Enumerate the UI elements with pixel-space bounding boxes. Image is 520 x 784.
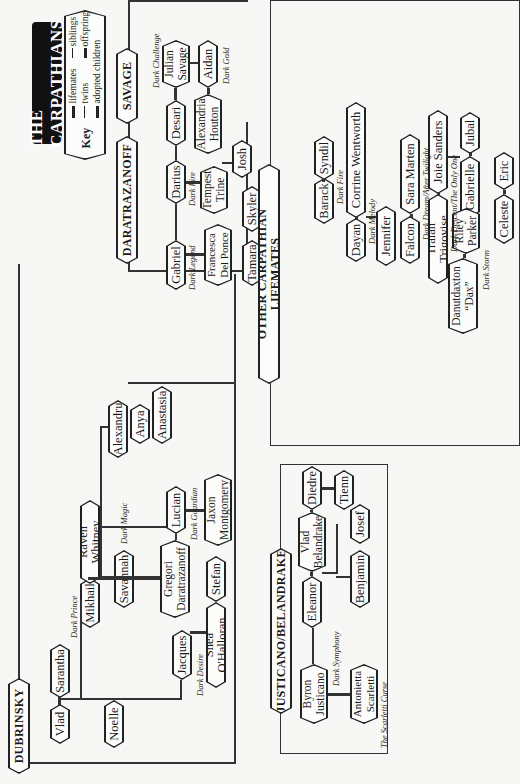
book-dark-fire-darius: Dark Fire	[188, 172, 197, 206]
key-item-twins: twins	[80, 83, 90, 104]
twins-symbol-icon	[84, 106, 85, 118]
person-vlad-belandrake: Vlad Belandrake	[298, 512, 326, 572]
person-stefan-node: Stefan	[206, 556, 226, 602]
person-raven-whitney: Raven Whitney	[80, 500, 100, 584]
book-dark-challenge: Dark Challenge	[152, 33, 161, 88]
book-scarletti-curse: The Scarletti Curse	[380, 682, 389, 748]
person-gabrielle: Gabrielle	[460, 156, 480, 218]
person-lucian: Lucian	[166, 486, 186, 534]
person-traian-trigovise: Traian Trigovise	[428, 194, 448, 284]
book-dark-legend: Dark Legend	[188, 245, 197, 290]
person-anya: Anya	[130, 404, 150, 444]
person-joie-sanders: Joie Sanders	[428, 110, 448, 194]
book-dark-desire: Dark Desire	[196, 654, 205, 696]
person-josef: Josef	[350, 504, 370, 544]
person-mikhail: Mikhail	[80, 578, 100, 628]
person-noelle: Noelle	[104, 700, 124, 748]
person-celeste: Celeste	[494, 194, 514, 244]
person-eric: Eric	[494, 152, 514, 190]
key-item-siblings: siblings	[68, 17, 78, 47]
family-label-justicano-belandrake: JUSTICANO/BELANDRAKE	[270, 548, 292, 714]
person-corrine-wentworth: Corrine Wentworth	[346, 102, 366, 218]
book-dark-prince: Dark Prince	[70, 596, 79, 638]
person-josh: Josh	[232, 140, 252, 178]
person-desari: Desari	[166, 100, 186, 146]
book-dark-symphony: Dark Symphony	[332, 631, 341, 686]
book-dark-gold: Dark Gold	[222, 47, 231, 84]
person-barack: Barack	[314, 178, 334, 224]
book-dark-storm: Dark Storm	[482, 250, 491, 290]
person-anastasia: Anastasia	[152, 386, 172, 444]
book-dark-dream: Dark Dream/After Twilight	[422, 148, 431, 240]
person-jacques: Jacques	[172, 630, 192, 680]
person-julian-savage: Julian Savage	[162, 40, 190, 88]
siblings-symbol-icon	[72, 48, 73, 58]
person-byron-justicano: Byron Justicano	[300, 664, 328, 724]
book-dark-guardian: Dark Guardian	[190, 488, 199, 540]
person-diedre: Diedre	[302, 466, 322, 510]
book-dark-fire-barack: Dark Fire	[336, 170, 345, 204]
legend-key: Key lifemates twins adopted children sib…	[64, 10, 106, 160]
family-label-savage: SAVAGE	[116, 48, 138, 124]
person-danutdaxton-dax: Danutdaxton “Dax”	[448, 258, 478, 334]
person-tienn: Tienn	[334, 470, 354, 510]
adopted-symbol-icon	[96, 106, 99, 118]
page-title: THE CARPATHIANS	[32, 22, 62, 144]
key-item-adopted: adopted children	[92, 40, 102, 104]
person-sarantha: Sarantha	[50, 644, 70, 698]
family-label-daratrazanoff: DARATRAZANOFF	[116, 136, 138, 264]
person-darius: Darius	[166, 160, 186, 204]
person-benjamin: Benjamin	[350, 550, 370, 608]
person-sara-marten: Sara Marten	[400, 134, 420, 214]
book-dark-melody: Dark Melody	[368, 199, 377, 244]
key-item-offspring: offspring	[80, 12, 90, 47]
offspring-symbol-icon	[84, 48, 87, 58]
person-jaxon-montgomery: Jaxon Montgomery	[204, 474, 232, 546]
person-antonietta-scarletti: Antonietta Scarletti	[350, 664, 378, 724]
person-dayan: Dayan	[346, 218, 366, 262]
person-jennifer: Jennifer	[376, 206, 396, 266]
person-eleanor: Eleanor	[302, 576, 322, 628]
person-vlad: Vlad	[50, 704, 70, 744]
family-label-other-lifemates: OTHER CARPATHIAN LIFEMATES	[258, 164, 280, 384]
book-dark-descent: Dark Descent/The Only One	[450, 155, 459, 252]
book-dark-magic: Dark Magic	[120, 503, 129, 544]
person-aidan: Aidan	[198, 40, 218, 88]
person-francesca-del-ponce: Francesca Del Ponce	[204, 224, 232, 286]
key-item-lifemates: lifemates	[68, 69, 78, 104]
person-alexandru: Alexandru	[108, 400, 128, 458]
person-gabriel: Gabriel	[166, 240, 186, 290]
key-label: Key	[80, 128, 93, 149]
person-alexandria-houton: Alexandria Houton	[194, 94, 222, 154]
person-tempest-trine: Tempest Trine	[200, 166, 228, 214]
lifemates-symbol-icon	[72, 106, 75, 118]
person-shea-ohalloran: Shea O'Halloran	[206, 602, 226, 688]
person-syndil: Syndil	[314, 136, 334, 180]
person-jubal: Jubal	[460, 112, 480, 154]
family-label-dubrinsky: DUBRINSKY	[8, 678, 30, 774]
person-falcon: Falcon	[400, 216, 420, 264]
person-gregori-daratrazanoff: Gregori Daratrazanoff	[160, 540, 190, 618]
